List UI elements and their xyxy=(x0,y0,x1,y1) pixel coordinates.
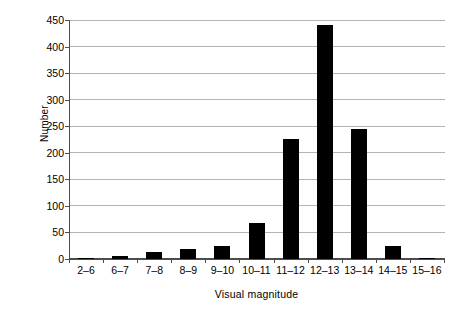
bar xyxy=(385,246,401,259)
x-axis-tick xyxy=(410,259,411,263)
bar xyxy=(419,258,435,259)
x-axis-tick xyxy=(205,259,206,263)
bar xyxy=(317,25,333,259)
x-axis-tick xyxy=(376,259,377,263)
bar xyxy=(180,249,196,259)
histogram-figure: Number 050100150200250300350400450 2–66–… xyxy=(0,0,458,318)
y-axis-tick-label: 200 xyxy=(46,148,64,158)
x-axis-tick-label: 10–11 xyxy=(242,264,270,276)
x-axis-tick-label: 6–7 xyxy=(111,264,129,276)
x-axis-tick-label: 9–10 xyxy=(211,264,234,276)
x-axis-tick xyxy=(137,259,138,263)
bar xyxy=(112,256,128,259)
bar-series xyxy=(69,20,444,259)
y-axis-tick-label: 400 xyxy=(46,42,64,52)
y-axis-tick-label: 350 xyxy=(46,68,64,78)
x-axis-tick xyxy=(239,259,240,263)
x-axis-tick-label: 7–8 xyxy=(145,264,163,276)
y-axis-tick-label: 250 xyxy=(46,121,64,131)
x-axis-tick-label: 11–12 xyxy=(276,264,304,276)
x-axis-title: Visual magnitude xyxy=(69,288,444,300)
y-axis-tick-label: 300 xyxy=(46,95,64,105)
x-axis-tick xyxy=(274,259,275,263)
y-axis-tick-label: 150 xyxy=(46,174,64,184)
x-axis-tick-labels: 2–66–77–88–99–1010–1111–1212–1313–1414–1… xyxy=(69,264,444,278)
x-axis-tick xyxy=(308,259,309,263)
x-axis-tick-label: 8–9 xyxy=(180,264,198,276)
bar xyxy=(214,246,230,259)
y-axis-tick-label: 450 xyxy=(46,15,64,25)
x-axis-tick xyxy=(342,259,343,263)
y-axis-tick-label: 0 xyxy=(58,254,64,264)
x-axis-tick-label: 12–13 xyxy=(310,264,339,276)
x-axis-tick xyxy=(69,259,70,263)
bar xyxy=(146,252,162,259)
y-axis-tick-labels: 050100150200250300350400450 xyxy=(26,20,64,259)
x-axis-tick xyxy=(103,259,104,263)
x-axis-tick-label: 13–14 xyxy=(344,264,373,276)
bar xyxy=(283,139,299,259)
x-axis-tick-label: 2–6 xyxy=(77,264,95,276)
bar xyxy=(351,129,367,259)
y-axis-tick-label: 100 xyxy=(46,201,64,211)
x-axis-tick-label: 15–16 xyxy=(412,264,441,276)
x-axis-tick xyxy=(171,259,172,263)
bar xyxy=(78,258,94,259)
x-axis-tick xyxy=(444,259,445,263)
x-axis-tick-label: 14–15 xyxy=(378,264,407,276)
y-axis-tick-label: 50 xyxy=(52,227,64,237)
bar xyxy=(249,223,265,259)
